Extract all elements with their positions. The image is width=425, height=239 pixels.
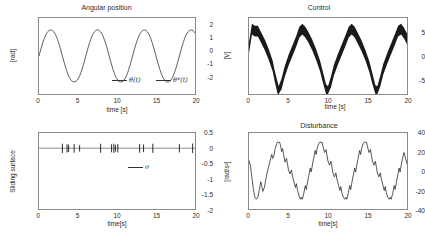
control-xtick: 5 xyxy=(286,97,290,104)
control-signal xyxy=(249,18,407,94)
sliding-surface-plot-area xyxy=(38,132,196,210)
disturbance-xtick: 0 xyxy=(246,212,250,219)
sliding-surface-xtick: 10 xyxy=(113,212,120,219)
control-xtick: 20 xyxy=(404,97,411,104)
control-xtick: 0 xyxy=(246,97,250,104)
disturbance-xtick: 5 xyxy=(286,212,290,219)
control-ylabel: [V] xyxy=(223,42,230,70)
angular-position-xtick: 20 xyxy=(192,97,199,104)
disturbance-ytick: 0 xyxy=(394,168,425,175)
control-plot-area xyxy=(248,17,408,95)
subplot-sliding-surface: 0.5 0 -0.5 -1 -1.5 -2 0 5 10 15 20 time[… xyxy=(0,120,213,239)
angular-position-legend: θ(t) xyxy=(112,76,141,84)
angular-position-xlabel: time [s] xyxy=(38,106,196,113)
sliding-surface-curve xyxy=(39,133,195,209)
disturbance-xtick: 20 xyxy=(404,212,411,219)
disturbance-ytick: 40 xyxy=(394,129,425,136)
disturbance-ylabel: [rad/s²] xyxy=(223,149,230,195)
angular-position-ytick: 1 xyxy=(179,33,213,40)
figure-canvas: Angular position 2 1 0 -1 -2 0 5 10 15 2… xyxy=(0,0,425,239)
sliding-surface-ytick: 0 xyxy=(179,144,213,151)
legend-label-theta: θ(t) xyxy=(129,76,141,84)
disturbance-xtick: 10 xyxy=(324,212,331,219)
control-ytick: -5 xyxy=(394,77,425,84)
subplot-control: Control 5 0 -5 0 5 10 15 20 time [s] [V] xyxy=(213,0,425,120)
sliding-surface-xlabel: time[s] xyxy=(38,220,196,227)
control-ytick: 0 xyxy=(394,53,425,60)
disturbance-plot-area xyxy=(248,132,408,210)
angular-position-ytick: 2 xyxy=(179,20,213,27)
legend-line-sigma xyxy=(128,167,143,168)
disturbance-ytick: -20 xyxy=(394,187,425,194)
disturbance-xlabel: time[s] xyxy=(248,220,408,227)
disturbance-xtick: 15 xyxy=(364,212,371,219)
angular-position-ytick: 0 xyxy=(179,47,213,54)
angular-position-xtick: 0 xyxy=(36,97,40,104)
sliding-surface-xtick: 0 xyxy=(36,212,40,219)
sliding-surface-ytick: -1.5 xyxy=(179,191,213,198)
disturbance-ytick: 20 xyxy=(394,148,425,155)
angular-position-title: Angular position xyxy=(0,4,213,11)
sliding-surface-ytick: 0.5 xyxy=(179,129,213,136)
control-xtick: 15 xyxy=(364,97,371,104)
angular-position-xtick: 10 xyxy=(113,97,120,104)
sliding-surface-ytick: -0.5 xyxy=(179,160,213,167)
subplot-disturbance: Disturbance 40 20 0 -20 -40 0 5 10 15 20… xyxy=(213,120,425,239)
angular-position-ytick: -1 xyxy=(179,60,213,67)
angular-position-xtick: 5 xyxy=(76,97,80,104)
sliding-surface-ytick: -1 xyxy=(179,175,213,182)
sliding-surface-legend: σ xyxy=(128,163,149,171)
sliding-surface-xtick: 20 xyxy=(192,212,199,219)
angular-position-legend-ref: θ*(t) xyxy=(156,76,188,84)
sliding-surface-xtick: 15 xyxy=(153,212,160,219)
sliding-surface-ylabel: Sliding surface xyxy=(9,142,16,202)
control-title: Control xyxy=(213,4,425,11)
legend-label-theta-ref: θ*(t) xyxy=(173,76,188,84)
legend-line-theta-ref xyxy=(156,80,171,81)
legend-line-theta xyxy=(112,80,127,81)
angular-position-ylabel: [rad] xyxy=(9,41,16,71)
legend-label-sigma: σ xyxy=(145,163,149,171)
control-xlabel: time [s] xyxy=(305,103,365,110)
control-ytick: 5 xyxy=(394,28,425,35)
angular-position-xtick: 15 xyxy=(153,97,160,104)
subplot-angular-position: Angular position 2 1 0 -1 -2 0 5 10 15 2… xyxy=(0,0,213,120)
sliding-surface-xtick: 5 xyxy=(76,212,80,219)
disturbance-curve xyxy=(249,133,407,209)
